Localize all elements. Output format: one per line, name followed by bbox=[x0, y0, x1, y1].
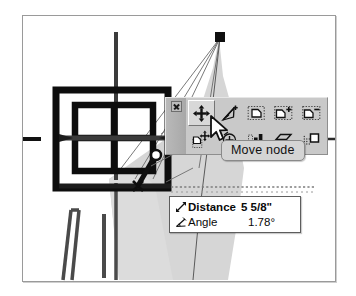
move-shape-icon bbox=[192, 130, 211, 149]
tool-remove-shape[interactable] bbox=[298, 100, 325, 126]
apex-node-handle[interactable] bbox=[215, 32, 225, 42]
screenshot-root: Move node Distance 5 5/8" bbox=[0, 0, 356, 296]
angle-value: 1.78° bbox=[241, 216, 296, 228]
info-row-distance: Distance 5 5/8" bbox=[174, 199, 296, 214]
angle-label: Angle bbox=[188, 216, 241, 228]
tool-move-node[interactable] bbox=[188, 100, 215, 126]
measurement-readout: Distance 5 5/8" Angle 1.78° bbox=[169, 196, 301, 233]
tool-move-shape[interactable] bbox=[188, 126, 215, 152]
add-node-icon bbox=[220, 104, 239, 123]
arrow-head-left bbox=[59, 134, 73, 142]
move-node-tooltip: Move node bbox=[221, 140, 305, 161]
move-node-icon bbox=[192, 104, 211, 123]
remove-shape-icon bbox=[302, 104, 321, 123]
tool-add-node[interactable] bbox=[215, 100, 242, 126]
distance-label: Distance bbox=[188, 201, 241, 213]
toolbar-gripper[interactable] bbox=[166, 98, 186, 154]
tool-copy-shape[interactable] bbox=[243, 100, 270, 126]
tool-add-shape[interactable] bbox=[270, 100, 297, 126]
drawing-canvas-frame[interactable]: Move node Distance 5 5/8" bbox=[22, 15, 336, 282]
lower-rail-lines bbox=[63, 210, 79, 280]
add-shape-icon bbox=[274, 104, 293, 123]
close-icon[interactable] bbox=[171, 101, 182, 112]
copy-shape-icon bbox=[247, 104, 266, 123]
distance-value: 5 5/8" bbox=[241, 201, 296, 213]
info-row-angle: Angle 1.78° bbox=[174, 214, 296, 229]
angle-icon bbox=[174, 216, 188, 228]
distance-arrow-icon bbox=[174, 201, 188, 213]
